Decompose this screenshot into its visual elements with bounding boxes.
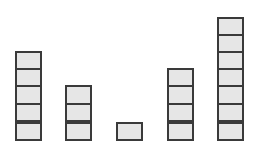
block-stack-5: [217, 19, 244, 141]
block-stack-1: [15, 53, 42, 141]
square-block: [15, 103, 42, 122]
square-block: [15, 122, 42, 141]
block-stack-2: [65, 87, 92, 141]
square-block: [65, 122, 92, 141]
block-stack-4: [167, 70, 194, 141]
square-block: [167, 122, 194, 141]
square-block: [65, 103, 92, 122]
block-stack-3: [116, 122, 143, 141]
square-block: [217, 103, 244, 122]
square-block: [116, 122, 143, 141]
square-block: [167, 103, 194, 122]
square-block: [217, 122, 244, 141]
